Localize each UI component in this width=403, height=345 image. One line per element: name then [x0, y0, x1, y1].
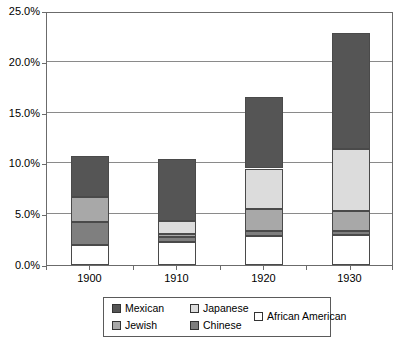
legend-label: African American [267, 311, 346, 322]
x-axis-tick-mark [46, 266, 47, 270]
legend-item-jewish[interactable]: Jewish [112, 320, 157, 331]
x-axis-tick-mark [220, 266, 221, 270]
bar-segment-african-american[interactable] [158, 242, 196, 265]
y-axis-tick-label: 0.0% [15, 260, 40, 271]
legend-item-chinese[interactable]: Chinese [190, 320, 242, 331]
bar-segment-mexican[interactable] [332, 33, 370, 149]
x-axis-tick-label-1910: 1910 [133, 272, 220, 285]
x-axis-labels: 1900191019201930 [46, 272, 393, 288]
legend-item-mexican[interactable]: Mexican [112, 303, 164, 314]
bar-segment-jewish[interactable] [245, 209, 283, 231]
bar-group-1900[interactable] [71, 11, 109, 265]
bar-segment-japanese[interactable] [332, 149, 370, 211]
legend-label: Japanese [203, 303, 249, 314]
plot-area [46, 12, 393, 266]
bar-segment-jewish[interactable] [71, 197, 109, 222]
legend-swatch-icon [112, 321, 121, 330]
bar-segment-mexican[interactable] [158, 159, 196, 221]
bar-segment-japanese[interactable] [245, 169, 283, 210]
y-axis-tick-label: 10.0% [9, 158, 40, 169]
x-axis-tick-mark [176, 266, 177, 270]
y-axis: 0.0%5.0%10.0%15.0%20.0%25.0% [0, 0, 46, 345]
y-axis-tick-label: 5.0% [15, 209, 40, 220]
legend-swatch-icon [190, 321, 199, 330]
x-axis-tick-mark [392, 266, 393, 270]
bar-segment-chinese[interactable] [158, 237, 196, 242]
bar-segment-chinese[interactable] [332, 231, 370, 234]
bar-segment-mexican[interactable] [71, 156, 109, 197]
legend-label: Chinese [203, 320, 242, 331]
bar-segment-mexican[interactable] [245, 97, 283, 168]
bar-segment-chinese[interactable] [245, 231, 283, 235]
x-axis-tick-label-1920: 1920 [220, 272, 307, 285]
x-axis-tick-label-1930: 1930 [306, 272, 393, 285]
x-axis-tick-mark [133, 266, 134, 270]
chart-legend: MexicanJapaneseJewishChineseAfrican Amer… [103, 297, 331, 337]
x-axis-tick-mark [350, 266, 351, 270]
bar-group-1920[interactable] [245, 11, 283, 265]
legend-swatch-icon [254, 312, 263, 321]
legend-item-japanese[interactable]: Japanese [190, 303, 249, 314]
bar-segment-jewish[interactable] [332, 211, 370, 231]
bar-segment-jewish[interactable] [158, 234, 196, 237]
legend-label: Mexican [125, 303, 164, 314]
bar-group-1910[interactable] [158, 11, 196, 265]
bar-segment-japanese[interactable] [158, 221, 196, 233]
bar-group-1930[interactable] [332, 11, 370, 265]
bar-segment-chinese[interactable] [71, 222, 109, 244]
bar-segment-african-american[interactable] [245, 236, 283, 265]
legend-item-african-american[interactable]: African American [254, 311, 346, 322]
x-axis-tick-mark [89, 266, 90, 270]
legend-label: Jewish [125, 320, 157, 331]
legend-swatch-icon [112, 304, 121, 313]
y-axis-tick-label: 20.0% [9, 57, 40, 68]
y-axis-tick-label: 25.0% [9, 6, 40, 17]
bar-segment-african-american[interactable] [332, 235, 370, 265]
x-axis-tick-label-1900: 1900 [46, 272, 133, 285]
x-axis-tick-mark [263, 266, 264, 270]
x-axis-tick-mark [306, 266, 307, 270]
bar-segment-african-american[interactable] [71, 245, 109, 265]
x-axis-ticks [46, 266, 393, 271]
stacked-bar-chart: 0.0%5.0%10.0%15.0%20.0%25.0% 19001910192… [0, 0, 403, 345]
legend-swatch-icon [190, 304, 199, 313]
y-axis-tick-label: 15.0% [9, 108, 40, 119]
